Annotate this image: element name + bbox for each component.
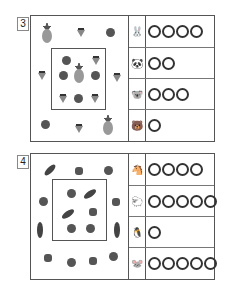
strawberry-icon — [113, 73, 121, 82]
sheep-icon: 🐑 — [129, 186, 146, 216]
pepper-icon — [112, 197, 120, 206]
tomato-icon — [74, 94, 83, 103]
strawberry-icon — [38, 71, 46, 80]
pepper-icon — [75, 166, 83, 175]
tomato-icon — [86, 224, 95, 233]
circle-tally — [148, 16, 203, 47]
pepper-icon — [89, 256, 97, 265]
strawberry-icon — [92, 56, 100, 65]
eggplant-icon — [113, 220, 121, 238]
circle-tally — [148, 186, 217, 216]
pepper-icon — [44, 253, 52, 262]
tomato-icon — [106, 28, 115, 37]
pepper-icon — [89, 207, 97, 216]
tomato-icon — [67, 224, 76, 233]
answer-row: 🐼 — [129, 48, 214, 79]
strawberry-icon — [77, 28, 85, 37]
tomato-icon — [104, 166, 113, 175]
problem-number-4: 4 — [17, 155, 29, 169]
problem-number-3: 3 — [17, 17, 29, 31]
koala-icon: 🐨 — [129, 79, 146, 109]
circle-tally — [148, 154, 203, 185]
tomato-icon — [67, 258, 76, 267]
answer-row: 🐴 — [129, 154, 214, 186]
tomato-icon — [41, 120, 50, 129]
eggplant-icon — [83, 186, 97, 200]
eggplant-icon — [61, 206, 75, 220]
bear-icon: 🐻 — [129, 110, 146, 141]
mouse-icon: 🐭 — [129, 248, 146, 279]
strawberry-icon — [91, 94, 99, 103]
answer-row: 🐭 — [129, 248, 214, 279]
circle-tally — [148, 217, 161, 247]
pineapple-icon — [102, 115, 114, 135]
answer-row: 🐰 — [129, 16, 214, 48]
answer-row: 🐑 — [129, 186, 214, 217]
picture-area — [31, 154, 129, 279]
tomato-icon — [109, 252, 118, 261]
panda-icon: 🐼 — [129, 48, 146, 78]
problem-4-panel: 🐴 🐑 🐧 🐭 — [30, 153, 215, 280]
tomato-icon — [59, 71, 68, 80]
tomato-icon — [91, 71, 100, 80]
answer-row: 🐧 — [129, 217, 214, 248]
penguin-icon: 🐧 — [129, 217, 146, 247]
tomato-icon — [67, 189, 76, 198]
circle-tally — [148, 48, 175, 78]
answer-row: 🐨 — [129, 79, 214, 110]
circle-tally — [148, 248, 217, 279]
problem-3-panel: 🐰 🐼 🐨 🐻 — [30, 15, 215, 142]
pineapple-icon — [41, 23, 53, 43]
picture-area — [31, 16, 129, 141]
eggplant-icon — [43, 162, 57, 176]
pineapple-icon — [73, 63, 85, 83]
circle-tally — [148, 79, 189, 109]
circle-tally — [148, 110, 161, 141]
tomato-icon — [62, 56, 71, 65]
rabbit-icon: 🐰 — [129, 16, 146, 47]
strawberry-icon — [59, 94, 67, 103]
tomato-icon — [39, 197, 48, 206]
answer-table: 🐴 🐑 🐧 🐭 — [129, 154, 214, 279]
eggplant-icon — [36, 220, 44, 238]
answer-table: 🐰 🐼 🐨 🐻 — [129, 16, 214, 141]
answer-row: 🐻 — [129, 110, 214, 141]
strawberry-icon — [75, 124, 83, 133]
horse-icon: 🐴 — [129, 154, 146, 185]
